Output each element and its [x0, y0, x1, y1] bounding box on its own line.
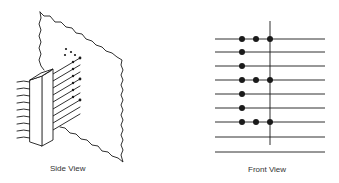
- front-view-drawing: [215, 21, 325, 152]
- dot-pattern: [239, 36, 273, 125]
- print-head-block: [30, 69, 53, 146]
- right-pins: [53, 58, 80, 130]
- front-view-label: Front View: [248, 165, 286, 174]
- paper-sheet-left-edge: [39, 12, 44, 70]
- diagram: [0, 0, 339, 183]
- side-view-label: Side View: [50, 164, 85, 173]
- side-view-drawing: [17, 12, 123, 162]
- left-wires: [17, 81, 30, 138]
